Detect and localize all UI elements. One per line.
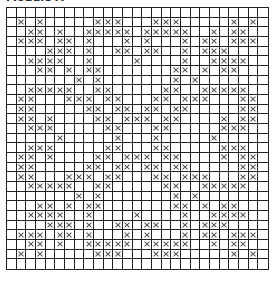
grid-cell [17, 66, 27, 76]
grid-cell [200, 211, 210, 221]
grid-cell [239, 259, 249, 269]
grid-cell [123, 192, 133, 202]
marked-cell [65, 230, 75, 240]
marked-cell [229, 211, 239, 221]
grid-cell [181, 153, 191, 163]
marked-cell [84, 95, 94, 105]
grid-cell [113, 230, 123, 240]
marked-cell [104, 153, 114, 163]
marked-cell [75, 172, 85, 182]
marked-cell [113, 27, 123, 37]
marked-cell [210, 56, 220, 66]
grid-cell [152, 230, 162, 240]
grid-cell [258, 230, 268, 240]
grid-cell [239, 192, 249, 202]
grid-cell [249, 47, 259, 57]
grid-cell [210, 114, 220, 124]
grid-cell [210, 172, 220, 182]
grid-cell [220, 250, 230, 260]
marked-cell [36, 18, 46, 28]
grid-cell [181, 250, 191, 260]
marked-cell [162, 240, 172, 250]
marked-cell [84, 27, 94, 37]
grid-cell [75, 230, 85, 240]
grid-cell [65, 105, 75, 115]
marked-cell [65, 95, 75, 105]
grid-cell [75, 18, 85, 28]
grid-cell [75, 211, 85, 221]
grid-cell [181, 85, 191, 95]
grid-cell [65, 124, 75, 134]
grid-cell [220, 76, 230, 86]
grid-cell [200, 8, 210, 18]
grid-cell [258, 259, 268, 269]
marked-cell [84, 172, 94, 182]
grid-cell [220, 8, 230, 18]
marked-cell [113, 105, 123, 115]
grid-cell [65, 259, 75, 269]
grid-cell [55, 259, 65, 269]
grid-cell [152, 182, 162, 192]
grid-cell [94, 259, 104, 269]
grid-cell [36, 47, 46, 57]
marked-cell [162, 114, 172, 124]
grid-cell [75, 124, 85, 134]
grid-cell [152, 8, 162, 18]
grid-cell [200, 56, 210, 66]
marked-cell [113, 163, 123, 173]
marked-cell [220, 182, 230, 192]
grid-cell [258, 76, 268, 86]
marked-cell [239, 182, 249, 192]
grid-cell [123, 8, 133, 18]
marked-cell [171, 66, 181, 76]
marked-cell [104, 240, 114, 250]
grid-cell [104, 66, 114, 76]
marked-cell [26, 172, 36, 182]
grid-cell [191, 134, 201, 144]
grid-cell [84, 134, 94, 144]
grid-cell [133, 95, 143, 105]
marked-cell [75, 95, 85, 105]
grid-cell [46, 8, 56, 18]
grid-cell [133, 27, 143, 37]
grid-cell [65, 114, 75, 124]
marked-cell [210, 182, 220, 192]
marked-cell [94, 240, 104, 250]
marked-cell [113, 18, 123, 28]
marked-cell [220, 124, 230, 134]
marked-cell [239, 27, 249, 37]
grid-cell [210, 259, 220, 269]
grid-cell [171, 124, 181, 134]
grid-cell [142, 124, 152, 134]
pattern-grid [6, 7, 269, 270]
grid-cell [191, 153, 201, 163]
grid-cell [84, 18, 94, 28]
grid-cell [229, 105, 239, 115]
grid-cell [181, 18, 191, 28]
grid-cell [17, 259, 27, 269]
grid-cell [7, 134, 17, 144]
marked-cell [94, 85, 104, 95]
grid-cell [46, 105, 56, 115]
grid-cell [210, 124, 220, 134]
marked-cell [171, 153, 181, 163]
grid-cell [36, 163, 46, 173]
marked-cell [84, 47, 94, 57]
marked-cell [17, 250, 27, 260]
grid-cell [17, 76, 27, 86]
grid-cell [55, 114, 65, 124]
marked-cell [36, 85, 46, 95]
grid-cell [258, 56, 268, 66]
marked-cell [200, 85, 210, 95]
grid-cell [181, 124, 191, 134]
grid-cell [84, 85, 94, 95]
marked-cell [181, 56, 191, 66]
grid-cell [239, 8, 249, 18]
grid-cell [142, 211, 152, 221]
marked-cell [229, 66, 239, 76]
grid-cell [258, 163, 268, 173]
grid-cell [229, 259, 239, 269]
grid-cell [152, 76, 162, 86]
grid-cell [17, 240, 27, 250]
grid-cell [55, 76, 65, 86]
